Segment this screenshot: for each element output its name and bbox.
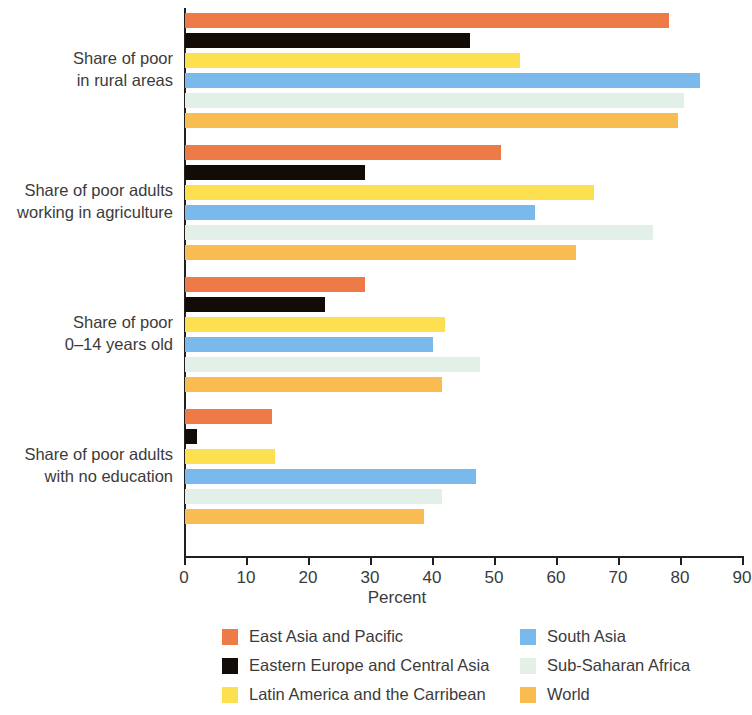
plot-area: Share of poor in rural areasShare of poo…: [0, 0, 752, 560]
bar-row: [185, 466, 745, 486]
bar-row: [185, 50, 745, 70]
bar: [185, 53, 520, 68]
bar: [185, 245, 576, 260]
legend-item-label: South Asia: [547, 627, 626, 646]
bar-row: [185, 506, 745, 526]
legend-item-label: Eastern Europe and Central Asia: [249, 656, 489, 675]
x-axis-tick: [742, 556, 744, 565]
x-axis-tick: [618, 556, 620, 565]
bar: [185, 429, 197, 444]
bar-row: [185, 110, 745, 130]
bar-row: [185, 10, 745, 30]
bar-row: [185, 242, 745, 262]
x-axis-tick-label: 70: [609, 568, 628, 588]
x-axis-tick: [308, 556, 310, 565]
bar-row: [185, 222, 745, 242]
bar-row: [185, 446, 745, 466]
legend-swatch-icon: [222, 658, 238, 674]
bar: [185, 277, 365, 292]
legend-swatch-icon: [222, 687, 238, 703]
bar: [185, 93, 684, 108]
bar: [185, 509, 424, 524]
bar-group: Share of poor adults working in agricult…: [185, 142, 745, 262]
bar: [185, 469, 476, 484]
x-axis: 0102030405060708090: [184, 556, 742, 558]
x-axis-tick-label: 20: [299, 568, 318, 588]
bar-chart-figure: Share of poor in rural areasShare of poo…: [0, 0, 752, 715]
legend-swatch-icon: [520, 658, 536, 674]
bar-row: [185, 334, 745, 354]
bar-group-label: Share of poor adults with no education: [0, 444, 173, 488]
bar: [185, 317, 445, 332]
bar-group-label: Share of poor adults working in agricult…: [0, 180, 173, 224]
legend-item-label: Sub-Saharan Africa: [547, 656, 690, 675]
bar-row: [185, 314, 745, 334]
legend-item-label: World: [547, 685, 590, 704]
legend-item: Sub-Saharan Africa: [520, 651, 690, 680]
bar-row: [185, 90, 745, 110]
bar: [185, 357, 480, 372]
bar: [185, 165, 365, 180]
legend-column-right: South AsiaSub-Saharan AfricaWorld: [520, 622, 690, 709]
bar-group-gap: [185, 394, 745, 406]
x-axis-tick-label: 60: [547, 568, 566, 588]
legend-item-label: East Asia and Pacific: [249, 627, 403, 646]
legend-item-label: Latin America and the Carribean: [249, 685, 486, 704]
x-axis-tick: [556, 556, 558, 565]
bar: [185, 409, 272, 424]
bar: [185, 205, 535, 220]
x-axis-title-label: Percent: [326, 588, 427, 608]
bar-row: [185, 182, 745, 202]
legend-item: Latin America and the Carribean: [222, 680, 489, 709]
bar-group: Share of poor in rural areas: [185, 10, 745, 130]
bar-row: [185, 142, 745, 162]
x-axis-tick-label: 10: [237, 568, 256, 588]
x-axis-tick-label: 50: [485, 568, 504, 588]
bar-group: Share of poor 0–14 years old: [185, 274, 745, 394]
bar: [185, 33, 470, 48]
legend-item: East Asia and Pacific: [222, 622, 489, 651]
bar-group-label: Share of poor 0–14 years old: [0, 312, 173, 356]
legend-swatch-icon: [222, 629, 238, 645]
bar-row: [185, 354, 745, 374]
bar-row: [185, 30, 745, 50]
bar: [185, 73, 700, 88]
legend-column-left: East Asia and PacificEastern Europe and …: [222, 622, 489, 709]
bar-group-gap: [185, 130, 745, 142]
x-axis-tick-label: 90: [733, 568, 752, 588]
bar-group: Share of poor adults with no education: [185, 406, 745, 526]
x-axis-tick: [432, 556, 434, 565]
bar-groups: Share of poor in rural areasShare of poo…: [185, 10, 745, 526]
bar: [185, 13, 669, 28]
bar: [185, 113, 678, 128]
bar-group-label: Share of poor in rural areas: [0, 48, 173, 92]
chart-legend: East Asia and PacificEastern Europe and …: [0, 622, 752, 715]
bar: [185, 297, 325, 312]
legend-item: South Asia: [520, 622, 690, 651]
bar-row: [185, 406, 745, 426]
x-axis-tick-label: 30: [361, 568, 380, 588]
bar-row: [185, 202, 745, 222]
bar-row: [185, 486, 745, 506]
bar-row: [185, 274, 745, 294]
bar-row: [185, 162, 745, 182]
x-axis-tick: [184, 556, 186, 565]
bar: [185, 449, 275, 464]
bar-row: [185, 426, 745, 446]
bar-row: [185, 374, 745, 394]
legend-swatch-icon: [520, 687, 536, 703]
bar: [185, 377, 442, 392]
legend-item: World: [520, 680, 690, 709]
bar: [185, 225, 653, 240]
bar-row: [185, 70, 745, 90]
bar: [185, 185, 594, 200]
legend-swatch-icon: [520, 629, 536, 645]
x-axis-tick: [370, 556, 372, 565]
x-axis-tick: [246, 556, 248, 565]
x-axis-tick: [494, 556, 496, 565]
legend-item: Eastern Europe and Central Asia: [222, 651, 489, 680]
x-axis-tick: [680, 556, 682, 565]
bar: [185, 337, 433, 352]
x-axis-tick-label: 40: [423, 568, 442, 588]
x-axis-tick-label: 0: [179, 568, 188, 588]
